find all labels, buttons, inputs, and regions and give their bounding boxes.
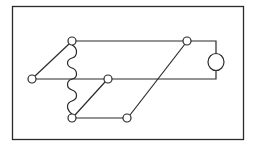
node-top-right [183,37,191,45]
component-circle [208,54,224,71]
node-left [28,75,36,83]
wire-diag-middle [75,82,105,115]
node-bottom-left [68,114,76,122]
wire-top-right [191,41,216,54]
node-top-left [68,37,76,45]
wire-diag-left [35,44,69,76]
circuit-diagram [0,0,256,146]
node-bottom-middle [123,114,131,122]
node-middle [104,75,112,83]
